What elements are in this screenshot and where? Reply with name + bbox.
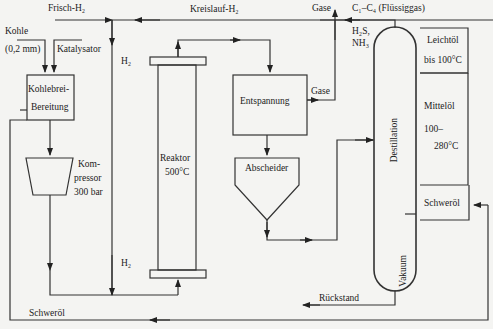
label-h2s: H₂S, xyxy=(352,26,370,37)
label-h2-top: H₂ xyxy=(121,56,131,67)
label-frisch-h2: Frisch-H₂ xyxy=(48,3,85,14)
label-kompressor-2: pressor xyxy=(74,173,101,184)
label-c1c4: C₁–C₄ (Flüssiggas) xyxy=(352,3,425,14)
label-leichtoel-temp: bis 100°C xyxy=(424,55,462,66)
label-h2-bottom: H₂ xyxy=(121,258,131,269)
label-vakuum: Vakuum xyxy=(398,255,409,287)
label-rueckstand: Rückstand xyxy=(319,293,359,304)
label-destillation: Destillation xyxy=(389,118,400,162)
label-gase-top: Gase xyxy=(312,3,331,14)
label-kompressor-1: Kom- xyxy=(78,159,100,170)
label-kreislauf-h2: Kreislauf-H₂ xyxy=(190,4,239,15)
label-mitteloel: Mittelöl xyxy=(424,101,455,112)
label-mitteloel-temp1: 100– xyxy=(424,124,443,135)
label-reaktor: Reaktor xyxy=(160,153,190,164)
label-mitteloel-temp2: 280°C xyxy=(434,141,458,152)
label-kompressor-3: 300 bar xyxy=(74,187,103,198)
label-schweroel-recycle: Schweröl xyxy=(29,308,65,319)
label-entspannung: Entspannung xyxy=(240,96,290,107)
label-kohlebrei-2: Bereitung xyxy=(31,102,68,113)
kohlebrei-box xyxy=(27,75,74,120)
label-gase-mid: Gase xyxy=(311,86,330,97)
label-abscheider: Abscheider xyxy=(245,163,288,174)
label-kohle-size: (0,2 mm) xyxy=(5,44,40,55)
label-kohlebrei-1: Kohlebrei- xyxy=(28,84,69,95)
kompressor-shape xyxy=(26,158,73,195)
label-reaktor-temp: 500°C xyxy=(165,167,189,178)
label-schweroel-product: Schweröl xyxy=(424,198,460,209)
label-leichtoel: Leichtöl xyxy=(427,35,459,46)
label-kohle: Kohle xyxy=(5,26,28,37)
label-nh3: NH₃ xyxy=(352,38,369,49)
label-katalysator: Katalysator xyxy=(57,44,101,55)
